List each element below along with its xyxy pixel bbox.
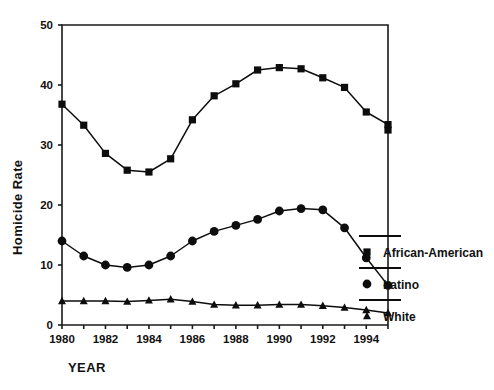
data-series bbox=[58, 204, 393, 290]
y-tick-label: 10 bbox=[40, 259, 53, 271]
square-marker-icon bbox=[232, 80, 239, 87]
circle-marker-icon bbox=[363, 280, 372, 289]
series-line bbox=[62, 299, 388, 313]
x-axis-title: YEAR bbox=[68, 360, 106, 375]
x-tick-label: 1994 bbox=[353, 333, 379, 345]
circle-marker-icon bbox=[166, 252, 175, 261]
y-axis-title: Homicide Rate bbox=[10, 159, 25, 255]
circle-marker-icon bbox=[297, 204, 306, 213]
plot-frame bbox=[62, 25, 388, 325]
y-tick-label: 20 bbox=[40, 199, 53, 211]
x-tick-label: 1984 bbox=[136, 333, 162, 345]
square-marker-icon bbox=[276, 64, 283, 71]
data-series bbox=[58, 295, 392, 316]
circle-marker-icon bbox=[79, 252, 88, 261]
square-marker-icon bbox=[384, 126, 391, 133]
square-marker-icon bbox=[319, 74, 326, 81]
legend-label: African-American bbox=[383, 246, 483, 260]
plot-border bbox=[62, 25, 388, 325]
homicide-rate-line-chart: 01020304050 1980198219841986198819901992… bbox=[0, 0, 494, 390]
legend-item[interactable]: Latino bbox=[359, 268, 419, 292]
circle-marker-icon bbox=[275, 207, 284, 216]
x-tick-label: 1990 bbox=[267, 333, 293, 345]
legend-label: Latino bbox=[383, 278, 419, 292]
series-line bbox=[62, 209, 388, 286]
square-marker-icon bbox=[145, 168, 152, 175]
square-marker-icon bbox=[254, 66, 261, 73]
legend-item[interactable]: African-American bbox=[359, 236, 483, 260]
x-axis-ticks: 19801982198419861988199019921994 bbox=[49, 325, 388, 345]
circle-marker-icon bbox=[145, 261, 154, 270]
chart-legend: African-AmericanLatinoWhite bbox=[359, 236, 483, 324]
square-marker-icon bbox=[297, 65, 304, 72]
square-marker-icon bbox=[80, 122, 87, 129]
y-tick-label: 30 bbox=[40, 139, 53, 151]
circle-marker-icon bbox=[58, 237, 67, 246]
circle-marker-icon bbox=[101, 261, 110, 270]
circle-marker-icon bbox=[340, 223, 349, 232]
legend-label: White bbox=[383, 310, 416, 324]
circle-marker-icon bbox=[231, 221, 240, 230]
square-marker-icon bbox=[124, 167, 131, 174]
square-marker-icon bbox=[211, 92, 218, 99]
x-tick-label: 1988 bbox=[223, 333, 249, 345]
y-tick-label: 40 bbox=[40, 79, 53, 91]
square-marker-icon bbox=[189, 116, 196, 123]
circle-marker-icon bbox=[253, 215, 262, 224]
series-layer bbox=[58, 64, 393, 316]
square-marker-icon bbox=[363, 248, 370, 255]
circle-marker-icon bbox=[318, 205, 327, 214]
circle-marker-icon bbox=[188, 237, 197, 246]
square-marker-icon bbox=[363, 108, 370, 115]
y-tick-label: 0 bbox=[47, 319, 53, 331]
circle-marker-icon bbox=[123, 263, 132, 272]
y-tick-label: 50 bbox=[40, 19, 53, 31]
square-marker-icon bbox=[102, 150, 109, 157]
x-tick-label: 1986 bbox=[180, 333, 206, 345]
square-marker-icon bbox=[167, 155, 174, 162]
x-tick-label: 1982 bbox=[93, 333, 119, 345]
square-marker-icon bbox=[58, 101, 65, 108]
x-tick-label: 1980 bbox=[49, 333, 75, 345]
square-marker-icon bbox=[341, 84, 348, 91]
data-series bbox=[58, 64, 391, 176]
y-axis-ticks: 01020304050 bbox=[40, 19, 62, 331]
circle-marker-icon bbox=[210, 227, 219, 236]
x-tick-label: 1992 bbox=[310, 333, 336, 345]
series-line bbox=[62, 68, 388, 172]
